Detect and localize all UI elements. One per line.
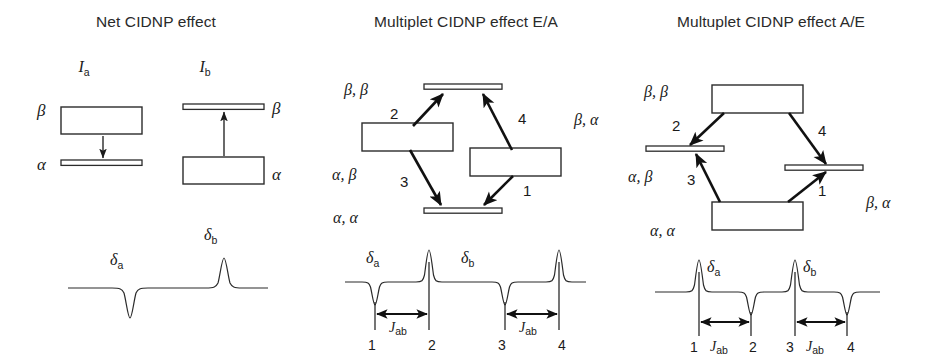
peak-sub-delta-a: a — [117, 259, 123, 271]
level-line-ae-alpha-beta — [646, 146, 724, 151]
spectrum-line-number-ea-2: 2 — [428, 337, 436, 353]
transition-number-ae-1: 1 — [818, 182, 826, 199]
spectrum-line-number-ea-3: 3 — [498, 337, 506, 353]
coupling-label-ea-a: Jab — [389, 320, 407, 337]
spectrum-line-number-ea-1: 1 — [368, 337, 376, 353]
level-label-ea-beta-alpha: β, α — [573, 111, 599, 129]
level-label-ib-alpha: α — [272, 165, 282, 184]
shift-label-ea-b: δb — [461, 249, 474, 269]
transition-arrow-ea-1 — [484, 176, 513, 205]
shift-sub-ae-a: a — [714, 266, 720, 278]
spectrum-line-number-ae-2: 2 — [749, 339, 757, 355]
level-label-ae-alpha-beta: α, β — [628, 168, 652, 186]
level-label-ea-alpha-alpha: α, α — [333, 209, 358, 226]
coupling-sub-ae-b: ab — [812, 344, 824, 356]
coupling-label-ea-b: Jab — [519, 320, 537, 337]
shift-label-ae-b: δb — [803, 258, 816, 278]
level-label-ae-beta-alpha: β, α — [865, 194, 891, 212]
transition-arrow-ea-4 — [483, 94, 512, 150]
peak-sub-delta-b: b — [211, 234, 217, 246]
coupling-sub-ea-a: ab — [395, 325, 407, 337]
spectrum-net: δa δb — [68, 226, 268, 318]
level-line-ae-beta-alpha — [785, 165, 863, 170]
peak-label-delta-b: δb — [204, 226, 217, 246]
nucleus-label-ia: Ia — [77, 58, 89, 78]
level-box-ae-alpha-alpha — [712, 202, 803, 230]
panel-title-ea: Multiplet CIDNP effect E/A — [374, 13, 558, 30]
spectrum-line-number-ae-3: 3 — [786, 339, 794, 355]
transition-number-ae-3: 3 — [687, 171, 695, 188]
coupling-sub-ea-b: ab — [525, 325, 537, 337]
nucleus-label-ib: Ib — [198, 58, 210, 78]
level-box-ea-alpha-beta — [362, 123, 453, 151]
transition-number-ea-2: 2 — [390, 105, 398, 122]
level-label-ea-alpha-beta: α, β — [332, 166, 356, 184]
coupling-label-ae-b: Jab — [806, 339, 824, 356]
spectrum-trace-ae — [655, 260, 880, 315]
spectrum-ae: δa δb Jab Jab 1 2 3 4 — [655, 258, 880, 356]
transition-arrow-ae-2 — [690, 113, 724, 145]
figure-canvas: Net CIDNP effect Ia Ib β α β α δa δb — [0, 0, 925, 358]
level-label-ia-beta: β — [36, 101, 46, 120]
level-line-ia-alpha — [61, 160, 142, 165]
level-label-ia-alpha: α — [37, 155, 47, 174]
shift-sub-ea-a: a — [373, 257, 379, 269]
transition-arrow-ea-3 — [410, 150, 441, 205]
transition-number-ea-3: 3 — [400, 173, 408, 190]
level-label-ea-beta-beta: β, β — [343, 81, 368, 99]
level-box-ae-beta-beta — [712, 85, 803, 113]
level-label-ib-beta: β — [271, 99, 281, 118]
transition-number-ae-4: 4 — [818, 122, 826, 139]
panel-net: Net CIDNP effect Ia Ib β α β α δa δb — [36, 13, 282, 318]
spectrum-ea: δa δb Jab Jab 1 2 3 4 — [345, 249, 586, 353]
coupling-sub-ae-a: ab — [716, 344, 728, 356]
cidnp-figure: Net CIDNP effect Ia Ib β α β α δa δb — [0, 0, 925, 358]
level-box-ib-alpha — [183, 157, 264, 184]
level-box-ea-beta-alpha — [470, 148, 561, 176]
spectrum-line-number-ea-4: 4 — [558, 337, 566, 353]
nucleus-sub-ib: b — [205, 66, 211, 78]
level-label-ae-beta-beta: β, β — [643, 83, 668, 101]
spectrum-line-number-ae-4: 4 — [847, 339, 855, 355]
shift-sub-ae-b: b — [810, 266, 816, 278]
peak-label-delta-a: δa — [110, 251, 123, 271]
shift-label-ea-a: δa — [366, 249, 379, 269]
transition-number-ea-1: 1 — [523, 182, 531, 199]
level-line-ea-beta-beta — [424, 84, 502, 89]
shift-label-ae-a: δa — [707, 258, 720, 278]
level-box-ia-beta — [61, 107, 142, 134]
level-label-ae-alpha-alpha: α, α — [650, 222, 675, 239]
spectrum-trace-net — [68, 258, 268, 318]
spectrum-line-number-ae-1: 1 — [690, 339, 698, 355]
panel-ae: Multuplet CIDNP effect A/E 2 4 3 1 β, β … — [628, 13, 891, 356]
transition-number-ea-4: 4 — [518, 110, 526, 127]
panel-title-net: Net CIDNP effect — [96, 13, 217, 30]
level-line-ea-alpha-alpha — [424, 208, 502, 213]
transition-arrow-ea-2 — [413, 94, 443, 126]
shift-sub-ea-b: b — [468, 257, 474, 269]
panel-ea: Multiplet CIDNP effect E/A 2 4 3 1 β, β … — [332, 13, 599, 353]
transition-number-ae-2: 2 — [672, 117, 680, 134]
level-line-ib-beta — [183, 104, 264, 109]
nucleus-sub-ia: a — [84, 66, 90, 78]
panel-title-ae: Multuplet CIDNP effect A/E — [677, 13, 865, 30]
coupling-label-ae-a: Jab — [710, 339, 728, 356]
transition-arrow-ae-3 — [696, 154, 720, 202]
